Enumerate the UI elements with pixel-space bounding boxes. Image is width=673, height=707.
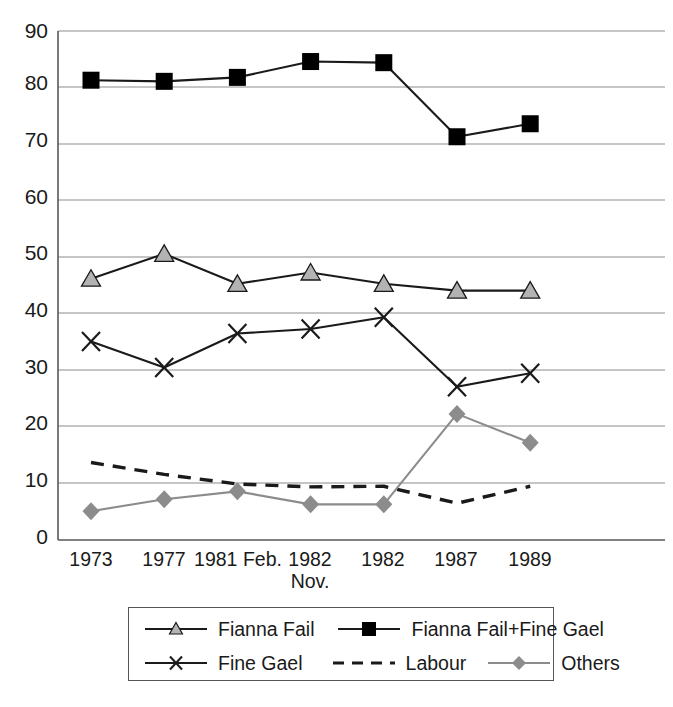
gridlines xyxy=(58,31,665,483)
x-axis-tick-7: 1989 xyxy=(480,549,580,571)
legend-label-fine-gael: Fine Gael xyxy=(218,652,303,675)
legend-row-1: Fianna Fail Fianna Fail+Fine Gael xyxy=(143,612,604,646)
x-axis-tick-2-line1: 1977 xyxy=(142,548,185,570)
diamond-line-icon xyxy=(486,653,552,673)
marker xyxy=(302,53,319,70)
series-fianna-fail-fine-gael xyxy=(83,53,539,145)
legend-label-fianna-fail: Fianna Fail xyxy=(218,618,314,641)
marker xyxy=(82,270,101,287)
x-axis-tick-7-line1: 1989 xyxy=(508,548,551,570)
chart-container: 90 80 70 60 50 40 30 20 10 0 1973 1977 xyxy=(0,0,673,707)
marker xyxy=(229,69,246,86)
x-axis-tick-4-line2: Nov. xyxy=(260,571,360,593)
marker xyxy=(522,434,539,452)
axis-lines xyxy=(58,31,665,540)
marker xyxy=(301,263,320,280)
series-fianna-fail xyxy=(82,245,540,298)
legend-row-2: Fine Gael Labour Others xyxy=(143,646,620,680)
series-fine-gael xyxy=(82,308,539,397)
marker xyxy=(155,245,174,262)
marker xyxy=(156,490,173,508)
legend-item-others[interactable]: Others xyxy=(486,652,620,675)
marker xyxy=(375,54,392,71)
dashed-line-icon xyxy=(331,653,397,673)
series-others xyxy=(83,405,539,520)
legend-item-fianna-fail[interactable]: Fianna Fail xyxy=(143,618,314,641)
legend-label-labour: Labour xyxy=(406,652,467,675)
square-line-icon xyxy=(336,619,402,639)
marker xyxy=(156,73,173,90)
marker xyxy=(83,72,100,89)
cross-line-icon xyxy=(143,653,209,673)
x-axis-tick-1-line1: 1973 xyxy=(69,548,112,570)
marker xyxy=(302,495,319,513)
marker xyxy=(522,115,539,132)
triangle-line-icon xyxy=(143,619,209,639)
x-axis-tick-6-line1: 1987 xyxy=(434,548,477,570)
legend-item-fine-gael[interactable]: Fine Gael xyxy=(143,652,303,675)
x-axis-tick-4-line1: 1982 xyxy=(288,548,331,570)
marker xyxy=(83,502,100,520)
legend: Fianna Fail Fianna Fail+Fine Gael Fine G… xyxy=(128,607,554,681)
plot-area xyxy=(0,0,673,707)
marker xyxy=(229,482,246,500)
legend-label-fianna-fail-fine-gael: Fianna Fail+Fine Gael xyxy=(411,618,603,641)
legend-item-labour[interactable]: Labour xyxy=(331,652,467,675)
series-layer xyxy=(82,53,540,520)
x-axis-tick-5-line1: 1982 xyxy=(361,548,404,570)
marker xyxy=(449,128,466,145)
series-line xyxy=(91,62,530,137)
legend-label-others: Others xyxy=(561,652,620,675)
legend-item-fianna-fail-fine-gael[interactable]: Fianna Fail+Fine Gael xyxy=(336,618,603,641)
